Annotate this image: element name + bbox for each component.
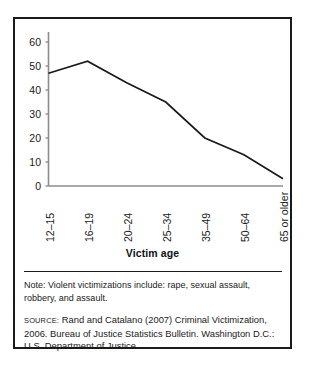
y-tick-label: 50 [17,61,41,71]
footnotes-block: Note: Violent victimizations include: ra… [24,271,282,353]
chart-plot-area: 0102030405060 12–1516–1920–2425–3435–495… [15,19,290,247]
x-tick-label: 65 or older [279,192,290,242]
y-tick-label: 10 [17,157,41,167]
source-body: Rand and Catalano (2007) Criminal Victim… [24,314,274,351]
figure-card: 0102030405060 12–1516–1920–2425–3435–495… [13,17,292,349]
y-tick-label: 60 [17,37,41,47]
x-tick-label: 12–15 [45,213,56,242]
x-tick-label: 50–64 [240,213,251,242]
note-text: Note: Violent victimizations include: ra… [24,279,282,304]
x-tick-label: 35–49 [201,213,212,242]
y-tick-label: 0 [17,181,41,191]
y-tick-label: 40 [17,85,41,95]
horizontal-divider [24,271,282,272]
source-label: source: [24,316,59,325]
x-tick-label: 25–34 [162,213,173,242]
source-text: source: Rand and Catalano (2007) Crimina… [24,314,282,353]
x-tick-label: 20–24 [123,213,134,242]
y-tick-label: 30 [17,109,41,119]
x-tick-label: 16–19 [84,213,95,242]
y-tick-label: 20 [17,133,41,143]
data-series-line [49,61,284,179]
x-axis-title: Victim age [15,247,290,259]
